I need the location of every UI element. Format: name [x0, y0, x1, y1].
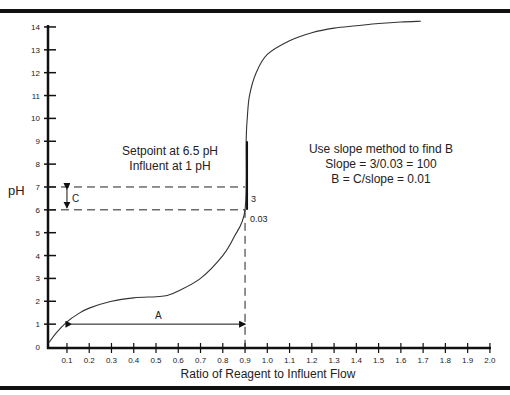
y-tick-label: 1 — [36, 320, 41, 329]
y-tick-label: 13 — [31, 46, 40, 55]
y-tick-label: 6 — [36, 206, 41, 215]
x-tick-label: 1.0 — [262, 356, 274, 365]
y-tick-label: 3 — [36, 274, 41, 283]
label-C: C — [72, 193, 79, 204]
y-tick-label: 2 — [36, 297, 41, 306]
x-tick-label: 1.1 — [284, 356, 296, 365]
y-tick-label: 10 — [31, 114, 40, 123]
x-tick-label: 0.7 — [195, 356, 207, 365]
x-tick-label: 1.3 — [329, 356, 341, 365]
x-tick-label: 0.3 — [106, 356, 118, 365]
y-tick-label: 9 — [36, 137, 41, 146]
chart-svg: 01234567891011121314 0.10.20.30.40.50.60… — [0, 0, 510, 395]
setpoint-text-1: Setpoint at 6.5 pH — [122, 144, 218, 158]
y-tick-label: 12 — [31, 69, 40, 78]
y-tick-label: 7 — [36, 183, 41, 192]
x-tick-label: 0.9 — [239, 356, 251, 365]
titration-chart: 01234567891011121314 0.10.20.30.40.50.60… — [0, 0, 510, 395]
x-tick-label: 0.1 — [61, 356, 73, 365]
x-tick-label: 1.6 — [395, 356, 407, 365]
top-rule — [0, 9, 510, 13]
slope-text-2: Slope = 3/0.03 = 100 — [325, 157, 437, 171]
label-run: 0.03 — [250, 214, 268, 224]
x-tick-label: 1.2 — [306, 356, 318, 365]
y-tick-label: 4 — [36, 252, 41, 261]
x-tick-label: 1.9 — [462, 356, 474, 365]
y-tick-label: 8 — [36, 160, 41, 169]
x-tick-label: 1.8 — [440, 356, 452, 365]
x-tick-label: 2.0 — [484, 356, 496, 365]
label-A: A — [155, 310, 162, 321]
x-axis-ticks: 0.10.20.30.40.50.60.70.80.91.01.11.21.31… — [61, 343, 496, 365]
y-tick-label: 0 — [36, 343, 41, 352]
x-tick-label: 0.6 — [173, 356, 185, 365]
slope-text-1: Use slope method to find B — [309, 142, 453, 156]
x-axis-label: Ratio of Reagent to Influent Flow — [181, 367, 356, 381]
slope-text-3: B = C/slope = 0.01 — [331, 172, 431, 186]
y-tick-label: 11 — [32, 92, 41, 101]
x-tick-label: 1.4 — [351, 356, 363, 365]
y-tick-label: 5 — [36, 229, 41, 238]
x-tick-label: 0.2 — [84, 356, 96, 365]
x-tick-label: 1.7 — [418, 356, 430, 365]
x-tick-label: 1.5 — [373, 356, 385, 365]
x-tick-label: 0.4 — [128, 356, 140, 365]
bottom-rule — [0, 386, 510, 390]
x-tick-label: 0.8 — [217, 356, 229, 365]
label-rise: 3 — [251, 194, 256, 204]
y-tick-label: 14 — [31, 23, 40, 32]
setpoint-text-2: Influent at 1 pH — [129, 159, 210, 173]
x-tick-label: 0.5 — [150, 356, 162, 365]
y-axis-ticks: 01234567891011121314 — [31, 23, 56, 352]
y-axis-label: pH — [8, 183, 25, 198]
